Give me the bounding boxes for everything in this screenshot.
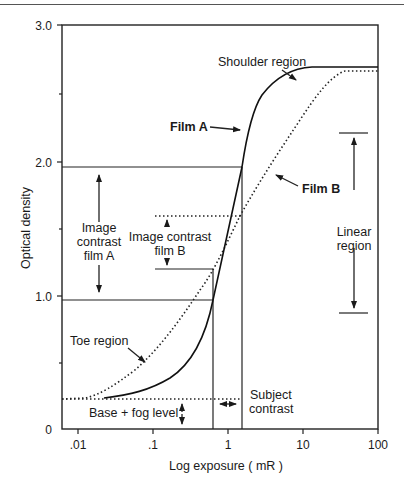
linear-region-label-2: region: [337, 239, 372, 253]
film-a-arrow: [210, 127, 240, 130]
linear-region-label-1: Linear: [337, 225, 372, 239]
toe-region-label: Toe region: [70, 334, 128, 348]
x-tick-0: .01: [70, 438, 87, 452]
x-tick-1: .1: [148, 438, 158, 452]
base-fog-label: Base + fog level: [89, 406, 178, 420]
film-a-label: Film A: [170, 120, 208, 134]
reference-lines: [62, 133, 368, 429]
contrast-b-label-1: Image contrast: [129, 230, 212, 244]
characteristic-curve-chart: 3.0 2.0 1.0 0 .01 .1 1 10 100 Log exposu…: [0, 0, 404, 485]
subject-contrast-label-2: contrast: [249, 402, 294, 416]
film-b-arrow: [276, 175, 298, 186]
y-tick-1: 1.0: [35, 290, 52, 304]
contrast-a-label-3: film A: [84, 249, 115, 263]
contrast-a-label-2: contrast: [77, 235, 122, 249]
y-tick-3: 3.0: [35, 19, 52, 33]
contrast-b-label-2: film B: [154, 244, 185, 258]
film-b-label: Film B: [302, 182, 340, 196]
y-ticks: [57, 25, 62, 363]
shoulder-region-label: Shoulder region: [218, 55, 306, 69]
toe-arrow: [128, 348, 145, 362]
y-tick-0: 0: [45, 423, 52, 437]
x-tick-3: 10: [296, 438, 310, 452]
x-axis-label: Log exposure ( mR ): [169, 459, 283, 473]
x-tick-2: 1: [225, 438, 232, 452]
y-tick-2: 2.0: [35, 156, 52, 170]
x-ticks: [78, 429, 378, 434]
x-tick-4: 100: [368, 438, 388, 452]
y-axis-label: Optical density: [19, 186, 33, 269]
contrast-a-label-1: Image: [82, 221, 117, 235]
subject-contrast-label-1: Subject: [250, 388, 292, 402]
